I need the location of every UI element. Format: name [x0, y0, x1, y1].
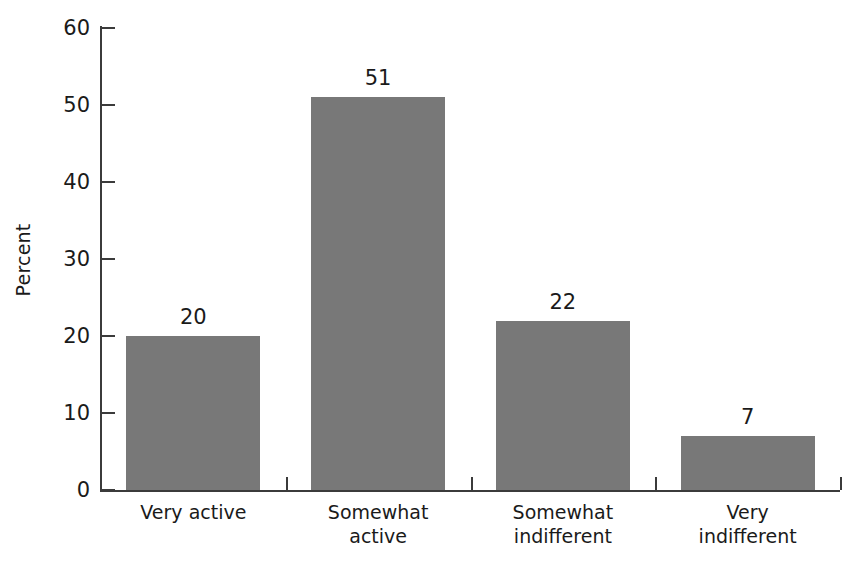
x-axis-line	[100, 490, 840, 492]
x-axis-category-label: Very active	[140, 500, 246, 524]
bar-value-label: 7	[741, 405, 754, 429]
y-axis-tick-labels: 0102030405060	[48, 0, 90, 575]
y-axis-tick-mark	[102, 335, 115, 337]
y-axis-tick-label: 50	[48, 93, 90, 117]
y-axis-tick-mark	[102, 412, 115, 414]
y-axis-tick-mark	[102, 489, 115, 491]
bar	[496, 321, 630, 490]
y-axis-tick-label: 60	[48, 16, 90, 40]
y-axis-tick-label: 10	[48, 401, 90, 425]
y-axis-tick-mark	[102, 181, 115, 183]
bar	[311, 97, 445, 490]
x-axis-category-label: Somewhat active	[328, 500, 429, 549]
bar-value-label: 22	[550, 290, 577, 314]
bar-value-label: 51	[365, 66, 392, 90]
y-axis-tick-mark	[102, 27, 115, 29]
bar	[126, 336, 260, 490]
bar-value-label: 20	[180, 305, 207, 329]
y-axis-title: Percent	[0, 0, 46, 575]
y-axis-tick-label: 0	[48, 478, 90, 502]
x-axis-tick-mark	[471, 477, 473, 490]
chart-canvas: Percent 0102030405060 20Very active51Som…	[0, 0, 855, 575]
x-axis-category-label: Somewhat indifferent	[513, 500, 614, 549]
x-axis-tick-mark	[840, 477, 842, 490]
y-axis-tick-label: 40	[48, 170, 90, 194]
y-axis-tick-label: 20	[48, 324, 90, 348]
y-axis-tick-mark	[102, 258, 115, 260]
x-axis-tick-mark	[286, 477, 288, 490]
y-axis-tick-label: 30	[48, 247, 90, 271]
x-axis-tick-mark	[655, 477, 657, 490]
y-axis-tick-mark	[102, 104, 115, 106]
bar	[681, 436, 815, 490]
y-axis-title-text: Percent	[12, 224, 34, 297]
x-axis-category-label: Very indifferent	[694, 500, 801, 549]
